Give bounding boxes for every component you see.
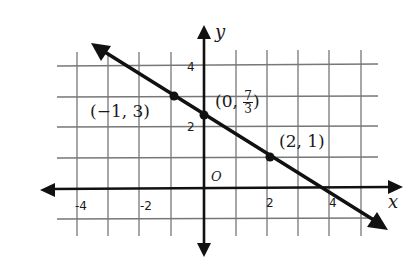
line-arrow-lower-right-icon — [367, 212, 388, 230]
tick-y-4: 4 — [187, 61, 195, 73]
coordinate-plane: y x O -4 -2 2 4 2 4 (−1, 3) (0, 73) (2, … — [0, 0, 417, 261]
point-label-open: (0, — [215, 91, 243, 111]
y-axis-up-arrow-icon — [197, 25, 211, 39]
origin-label: O — [211, 170, 222, 183]
point-0-7-3 — [200, 111, 209, 120]
point-label-0-7-3: (0, 73) — [215, 90, 260, 115]
point-label-2-1: (2, 1) — [279, 133, 325, 150]
fraction-7-3: 73 — [243, 90, 253, 115]
tick-x-4: 4 — [329, 197, 337, 209]
x-axis-label: x — [388, 193, 398, 211]
y-axis-label: y — [215, 23, 225, 41]
plotted-line — [91, 43, 388, 230]
fraction-denominator: 3 — [243, 103, 253, 115]
tick-y-2: 2 — [187, 121, 195, 133]
y-axis — [197, 25, 211, 257]
tick-x-neg2: -2 — [140, 200, 152, 212]
point-label-neg1-3: (−1, 3) — [90, 103, 150, 120]
graph-svg — [0, 0, 417, 261]
tick-x-2: 2 — [266, 197, 274, 209]
point-2-1 — [266, 153, 275, 162]
point-label-close: ) — [253, 91, 260, 111]
tick-x-neg4: -4 — [75, 200, 87, 212]
y-axis-down-arrow-icon — [197, 243, 211, 257]
point-neg1-3 — [170, 92, 179, 101]
x-axis-left-arrow-icon — [40, 183, 55, 197]
